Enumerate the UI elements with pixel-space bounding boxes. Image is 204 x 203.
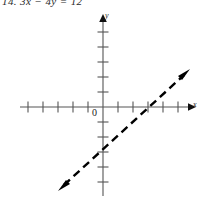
x-axis-label: x [193, 100, 197, 109]
coordinate-plane-graph [0, 0, 204, 203]
figure-container: 14. 3x − 4y = 12 [0, 0, 204, 203]
y-axis-label: y [105, 11, 109, 20]
plotted-line [64, 75, 184, 185]
origin-label: 0 [92, 107, 97, 118]
